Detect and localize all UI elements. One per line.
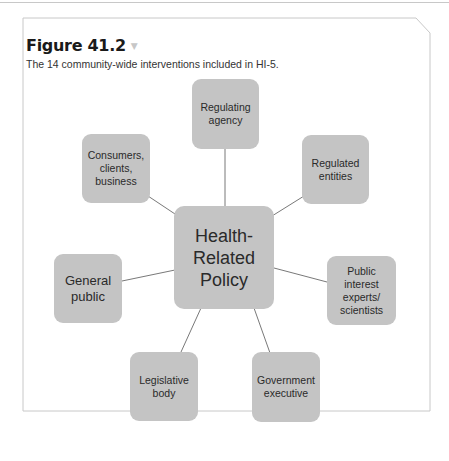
connector-legislative-body bbox=[181, 308, 201, 352]
node-legislative-body: Legislativebody bbox=[130, 352, 198, 421]
node-center-health-related-policy: Health-RelatedPolicy bbox=[174, 206, 274, 309]
connector-public-interest bbox=[274, 268, 327, 282]
node-regulating-agency: Regulatingagency bbox=[192, 79, 259, 149]
node-regulated-entities: Regulatedentities bbox=[302, 135, 369, 204]
node-general-public: Generalpublic bbox=[54, 254, 122, 323]
connector-government-executive bbox=[254, 308, 270, 353]
connector-general-public bbox=[122, 270, 175, 281]
connector-regulated-entities bbox=[272, 196, 304, 216]
node-government-executive: Governmentexecutive bbox=[252, 352, 320, 422]
node-consumers: Consumers,clients,business bbox=[82, 134, 150, 203]
node-public-interest: Publicinterestexperts/scientists bbox=[327, 256, 396, 325]
